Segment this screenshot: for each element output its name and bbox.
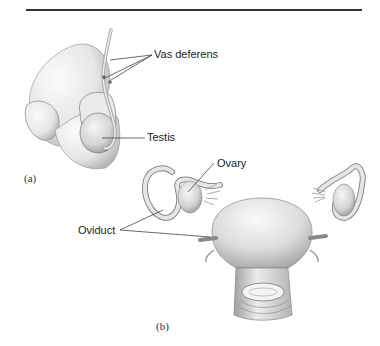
label-vas-deferens: Vas deferens — [154, 48, 218, 60]
female-reproductive-drawing — [145, 166, 363, 320]
panel-label-b: (b) — [156, 320, 169, 332]
male-reproductive-drawing — [25, 30, 120, 169]
label-oviduct: Oviduct — [78, 224, 115, 236]
label-ovary: Ovary — [217, 157, 246, 169]
panel-label-a: (a) — [24, 172, 36, 184]
label-testis: Testis — [147, 131, 175, 143]
